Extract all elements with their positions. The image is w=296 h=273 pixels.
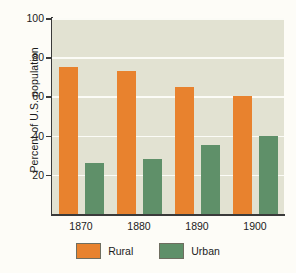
x-tick-label-1880: 1880 bbox=[119, 220, 159, 232]
bar-urban-1900 bbox=[259, 136, 278, 214]
y-tick-mark bbox=[46, 175, 52, 177]
y-tick-label: 20 bbox=[4, 169, 44, 181]
bar-rural-1900 bbox=[233, 96, 252, 214]
bar-rural-1890 bbox=[175, 87, 194, 214]
bar-chart-figure: Percent of U.S. population 10080604020 1… bbox=[0, 0, 296, 273]
y-tick-label: 60 bbox=[4, 90, 44, 102]
bar-urban-1870 bbox=[85, 163, 104, 214]
legend-label-rural: Rural bbox=[108, 245, 133, 257]
legend-swatch-rural bbox=[76, 243, 101, 259]
bar-urban-1880 bbox=[143, 159, 162, 214]
legend-label-urban: Urban bbox=[191, 245, 220, 257]
y-tick-mark bbox=[46, 57, 52, 59]
x-tick-label-1870: 1870 bbox=[61, 220, 101, 232]
y-tick-label: 100 bbox=[4, 12, 44, 24]
y-tick-label: 40 bbox=[4, 130, 44, 142]
legend-item-rural[interactable]: Rural bbox=[76, 243, 133, 259]
x-tick-label-1890: 1890 bbox=[177, 220, 217, 232]
bar-urban-1890 bbox=[201, 145, 220, 214]
chart-legend: RuralUrban bbox=[0, 243, 296, 259]
y-tick-mark bbox=[46, 18, 52, 20]
gridline bbox=[52, 57, 284, 59]
bar-rural-1870 bbox=[59, 67, 78, 214]
gridline bbox=[52, 18, 284, 20]
bar-rural-1880 bbox=[117, 71, 136, 214]
legend-swatch-urban bbox=[159, 243, 184, 259]
y-tick-mark bbox=[46, 96, 52, 98]
x-axis-line bbox=[51, 214, 285, 216]
plot-area bbox=[52, 18, 284, 214]
y-tick-label: 80 bbox=[4, 51, 44, 63]
legend-item-urban[interactable]: Urban bbox=[159, 243, 220, 259]
y-tick-mark bbox=[46, 136, 52, 138]
x-tick-label-1900: 1900 bbox=[235, 220, 275, 232]
